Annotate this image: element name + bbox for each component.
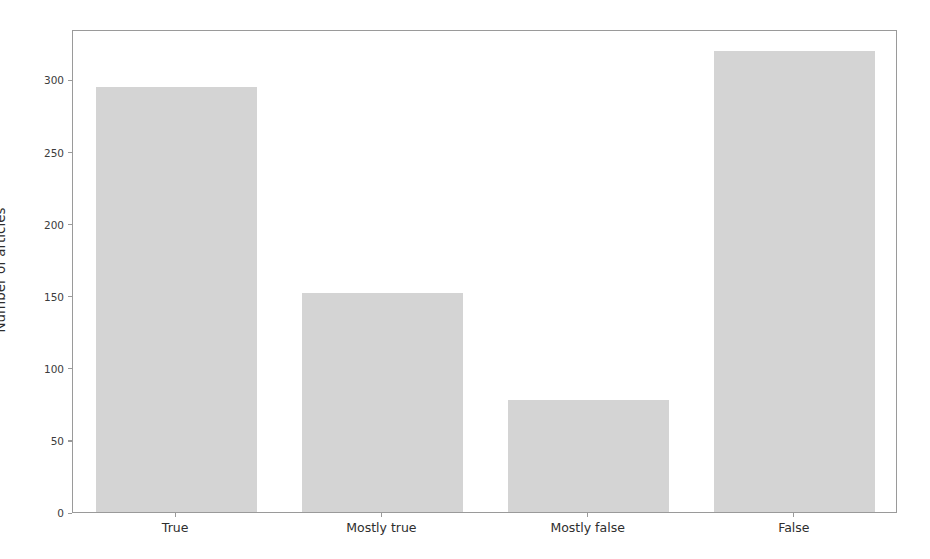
x-tick-mark <box>175 513 176 517</box>
x-tick-label: Mostly true <box>291 520 471 535</box>
x-tick-label: False <box>704 520 884 535</box>
x-tick-layer: TrueMostly trueMostly falseFalse <box>0 0 930 559</box>
x-tick-mark <box>587 513 588 517</box>
x-tick-label: True <box>85 520 265 535</box>
x-tick-mark <box>793 513 794 517</box>
x-tick-label: Mostly false <box>498 520 678 535</box>
bar-chart-figure: Number of articles 050100150200250300 Tr… <box>0 0 930 559</box>
x-tick-mark <box>381 513 382 517</box>
